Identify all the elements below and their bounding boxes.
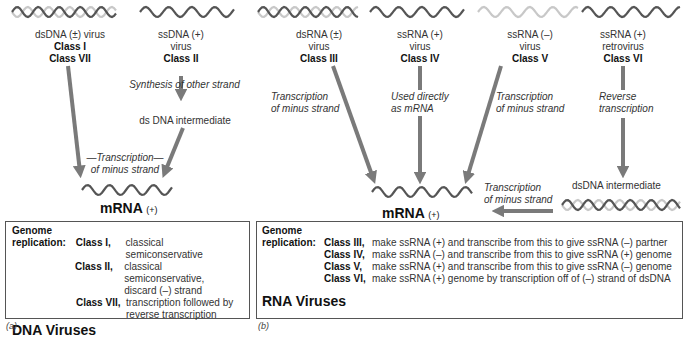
class-name: Class IV, — [324, 249, 372, 261]
class6-reverse-transcription-label: Reversetranscription — [599, 91, 653, 115]
virus-type: dsDNA (±) virus — [0, 29, 140, 41]
panel-caption-a: (a) — [6, 321, 17, 331]
box-title: RNA Viruses — [262, 293, 676, 309]
genome-label: Genome — [12, 225, 243, 237]
genome-label: Genome — [262, 225, 676, 237]
rna-viruses-box: Genome replication: Class III, make ssRN… — [256, 221, 683, 319]
panel-caption-b: (b) — [258, 321, 269, 331]
mrna-label-a: mRNA (+) — [100, 200, 157, 216]
dsdna-intermediate-label: dsDNA intermediate — [572, 180, 661, 192]
ssrna-minus-strand — [478, 7, 578, 17]
class1-class7-label: dsDNA (±) virus Class I Class VII — [0, 29, 140, 65]
class-name: Class I — [0, 41, 140, 53]
bottom-transcription-label: Transcriptionof minus strand — [484, 182, 552, 206]
transcription-label-a: —Transcription— of minus strand — [80, 152, 170, 176]
mrna-strand-b — [372, 187, 472, 197]
mrna-text: mRNA — [100, 200, 142, 216]
class5-transcription-label: Transcriptionof minus strand — [496, 91, 564, 115]
class-name: Class II, — [75, 261, 124, 297]
replication-description: make ssRNA (–) and transcribe from this … — [372, 249, 672, 261]
class2-label: ssDNA (+) virus Class II — [131, 29, 231, 65]
class5-label: ssRNA (–)virusClass V — [490, 29, 570, 65]
replication-description: classical semiconservative,discard (–) s… — [124, 261, 243, 297]
mrna-sign: (+) — [146, 205, 157, 215]
class4-used-directly-label: Used directlyas mRNA — [391, 91, 449, 115]
transcription-line2: of minus strand — [80, 164, 170, 176]
ssdna-strand — [140, 7, 234, 17]
dsdna-helix-strand — [12, 7, 116, 17]
arrow-class1-to-mrna — [68, 66, 80, 172]
replication-row: Class V, make ssRNA (+) and transcribe f… — [262, 261, 676, 273]
class-name: Class VI, — [324, 273, 372, 285]
class3-transcription-label: Transcriptionof minus strand — [271, 91, 339, 115]
synthesis-label: Synthesis of other strand — [122, 79, 247, 91]
class4-label: ssRNA (+)virusClass IV — [380, 29, 460, 65]
replication-row: Class VII, transcription followed byreve… — [12, 297, 243, 321]
replication-row: replication: Class III, make ssRNA (+) a… — [262, 237, 676, 249]
dna-viruses-box: Genome replication: Class I, classical s… — [5, 221, 250, 319]
transcription-line1: —Transcription— — [80, 152, 170, 164]
box-title: DNA Viruses — [12, 322, 243, 338]
replication-description: classical semiconservative — [126, 237, 243, 261]
arrow-class5-to-mrna — [467, 66, 501, 178]
replication-description: make ssRNA (+) genome by transcription o… — [372, 273, 671, 285]
replication-row: replication: Class I, classical semicons… — [12, 237, 243, 261]
class-name: Class II — [131, 53, 231, 65]
virus-type: virus — [131, 41, 231, 53]
class-name: Class V, — [324, 261, 372, 273]
ssrna-retrovirus-strand — [582, 7, 680, 17]
class-name: Class I, — [76, 237, 126, 261]
replication-row: Class VI, make ssRNA (+) genome by trans… — [262, 273, 676, 285]
virus-type: ssDNA (+) — [131, 29, 231, 41]
replication-row: Class IV, make ssRNA (–) and transcribe … — [262, 249, 676, 261]
replication-description: make ssRNA (+) and transcribe from this … — [372, 237, 667, 249]
replication-description: transcription followed byreverse transcr… — [126, 297, 233, 321]
class3-label: dsRNA (±)virusClass III — [279, 29, 359, 65]
replication-description: make ssRNA (+) and transcribe from this … — [372, 261, 672, 273]
class-name: Class III, — [324, 237, 372, 249]
replication-row: Class II, classical semiconservative,dis… — [12, 261, 243, 297]
arrow-class3-to-mrna — [333, 66, 373, 178]
ds-dna-intermediate-label: ds DNA intermediate — [135, 115, 235, 127]
class-name: Class VII, — [76, 297, 126, 321]
class6-label: ssRNA (+)retrovirusClass VI — [583, 29, 663, 65]
mrna-strand-a — [82, 185, 172, 195]
replication-label: replication: — [12, 237, 76, 261]
ssrna-plus-strand — [370, 7, 464, 17]
mrna-label-b: mRNA (+) — [382, 205, 439, 221]
class-name: Class VII — [0, 53, 140, 65]
